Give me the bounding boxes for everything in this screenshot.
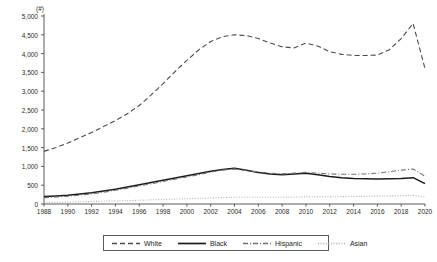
legend-entry-black[interactable]: Black [170,240,235,247]
legend-swatch-hispanic [243,240,271,247]
legend-label: Asian [350,240,368,247]
series-line-white [44,24,425,152]
legend-entry-asian[interactable]: Asian [310,240,376,247]
legend-swatch-white [112,240,140,247]
legend-swatch-black [178,240,206,247]
legend-swatch-asian [318,240,346,247]
legend-entry-hispanic[interactable]: Hispanic [235,240,310,247]
legend-label: Hispanic [275,240,302,247]
chart-legend: WhiteBlackHispanicAsian [103,235,329,251]
legend-entry-white[interactable]: White [104,240,170,247]
series-line-hispanic [44,169,425,198]
legend-label: White [144,240,162,247]
series-line-asian [44,195,425,202]
legend-label: Black [210,240,227,247]
